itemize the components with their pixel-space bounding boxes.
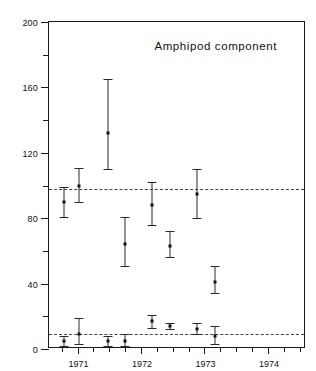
x-tick-minor: [109, 347, 110, 352]
lower-mean-line: [49, 334, 304, 335]
error-bar-cap-upper: [75, 168, 84, 169]
error-bar-cap-lower: [166, 329, 175, 330]
x-tick-minor: [93, 347, 94, 352]
y-tick-label-0: 0: [33, 346, 38, 355]
chart-title: Amphipod component: [154, 40, 277, 52]
error-bar-cap-lower: [148, 328, 157, 329]
x-tick-minor: [236, 347, 237, 352]
upper-mean-line: [49, 189, 304, 190]
error-bar-cap-upper: [211, 326, 220, 327]
data-point-marker: [151, 320, 154, 323]
error-bar-cap-upper: [121, 334, 130, 335]
error-bar-cap-upper: [75, 318, 84, 319]
x-tick-minor: [284, 347, 285, 352]
error-bar-cap-upper: [59, 187, 68, 188]
x-tick-minor: [62, 347, 63, 352]
plot-area: Amphipod component 04080120160200 197119…: [48, 21, 305, 348]
x-tick-minor: [220, 347, 221, 352]
data-point-marker: [62, 339, 65, 342]
y-tick-minor-140: [43, 120, 49, 121]
error-bar: [125, 217, 126, 266]
data-point-marker: [78, 333, 81, 336]
x-tick-minor: [125, 347, 126, 352]
data-point-marker: [107, 339, 110, 342]
data-point-marker: [169, 325, 172, 328]
error-bar-cap-lower: [59, 346, 68, 347]
x-tick-1973: 1973: [204, 347, 205, 354]
error-bar-cap-upper: [211, 266, 220, 267]
x-tick-1971: 1971: [78, 347, 79, 354]
error-bar: [79, 318, 80, 344]
data-point-marker: [62, 200, 65, 203]
error-bar-cap-upper: [193, 169, 202, 170]
y-tick-label-80: 80: [28, 215, 38, 224]
y-tick-label-40: 40: [28, 280, 38, 289]
error-bar-cap-lower: [75, 202, 84, 203]
chart-figure: Geometric mean dry weight (mgm)/0.04 M2 …: [0, 0, 316, 371]
error-bar-cap-lower: [148, 225, 157, 226]
y-tick-label-160: 160: [22, 84, 38, 93]
error-bar-cap-upper: [104, 336, 113, 337]
error-bar-cap-lower: [166, 257, 175, 258]
data-point-marker: [151, 204, 154, 207]
data-point-marker: [196, 328, 199, 331]
error-bar-cap-upper: [121, 217, 130, 218]
data-point-marker: [214, 280, 217, 283]
x-tick-label-1973: 1973: [195, 360, 215, 369]
error-bar-cap-upper: [148, 182, 157, 183]
error-bar: [108, 79, 109, 169]
error-bar-cap-lower: [211, 344, 220, 345]
y-tick-200: 200: [41, 22, 49, 23]
y-tick-label-200: 200: [22, 19, 38, 28]
data-point-marker: [214, 334, 217, 337]
data-point-marker: [124, 339, 127, 342]
error-bar-cap-lower: [59, 217, 68, 218]
error-bar-cap-upper: [148, 315, 157, 316]
error-bar-cap-lower: [104, 346, 113, 347]
data-point-marker: [107, 132, 110, 135]
y-tick-80: 80: [41, 218, 49, 219]
error-bar-cap-lower: [193, 334, 202, 335]
y-tick-minor-100: [43, 186, 49, 187]
error-bar-cap-lower: [193, 218, 202, 219]
y-tick-0: 0: [41, 349, 49, 350]
x-tick-minor: [300, 347, 301, 352]
y-tick-minor-180: [43, 55, 49, 56]
error-bar-cap-upper: [193, 323, 202, 324]
y-tick-minor-20: [43, 316, 49, 317]
y-tick-minor-60: [43, 251, 49, 252]
data-point-marker: [196, 192, 199, 195]
y-tick-120: 120: [41, 153, 49, 154]
error-bar-cap-lower: [121, 346, 130, 347]
x-tick-label-1971: 1971: [69, 360, 89, 369]
x-tick-1974: 1974: [268, 347, 269, 354]
y-tick-label-120: 120: [22, 149, 38, 158]
error-bar-cap-lower: [211, 293, 220, 294]
error-bar-cap-upper: [166, 231, 175, 232]
y-tick-40: 40: [41, 284, 49, 285]
data-point-marker: [124, 243, 127, 246]
x-tick-1972: 1972: [141, 347, 142, 354]
y-tick-160: 160: [41, 87, 49, 88]
x-tick-label-1972: 1972: [132, 360, 152, 369]
x-tick-minor: [173, 347, 174, 352]
x-tick-minor: [157, 347, 158, 352]
error-bar-cap-upper: [104, 79, 113, 80]
data-point-marker: [78, 184, 81, 187]
error-bar-cap-upper: [59, 336, 68, 337]
error-bar-cap-lower: [104, 169, 113, 170]
x-tick-minor: [252, 347, 253, 352]
error-bar-cap-lower: [75, 344, 84, 345]
data-point-marker: [169, 244, 172, 247]
error-bar-cap-lower: [121, 266, 130, 267]
x-tick-minor: [189, 347, 190, 352]
x-tick-label-1974: 1974: [259, 360, 279, 369]
